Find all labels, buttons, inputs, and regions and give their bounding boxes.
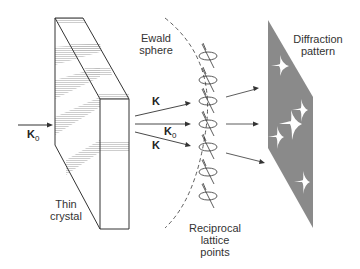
k0-mid-label: K0 [164, 125, 176, 140]
incident-beam-arrow [18, 123, 53, 128]
k-upper-label: K [152, 95, 160, 107]
ewald-sphere-label: Ewald sphere [136, 32, 176, 56]
reciprocal-lattice-points [199, 43, 217, 208]
k-lower-label: K [152, 139, 160, 151]
diffracted-beams [226, 86, 265, 164]
diffraction-pattern-label: Diffraction pattern [288, 33, 348, 57]
k0-incident-label: K0 [27, 128, 39, 143]
thin-crystal-label: Thin crystal [46, 198, 86, 222]
reciprocal-lattice-label: Reciprocal lattice points [185, 222, 245, 258]
scattered-beams [135, 101, 191, 147]
